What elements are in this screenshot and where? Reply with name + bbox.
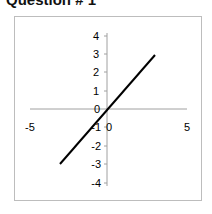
y-tick-label: 2: [93, 66, 99, 78]
y-tick-label: -3: [91, 158, 101, 170]
x-tick-label: 5: [184, 121, 190, 133]
y-tick-label: -2: [91, 140, 101, 152]
line-chart: 4 3 2 1 0 -1 -2 -3 -4 -5 0 5: [0, 0, 212, 214]
y-tick-label: 4: [93, 30, 99, 42]
x-tick-label: -5: [25, 121, 35, 133]
y-tick-label: 3: [93, 48, 99, 60]
y-tick-label: -4: [91, 177, 101, 189]
y-tick-label: 1: [93, 85, 99, 97]
x-tick-label: 0: [106, 121, 112, 133]
y-tick-label: 0: [94, 103, 100, 115]
